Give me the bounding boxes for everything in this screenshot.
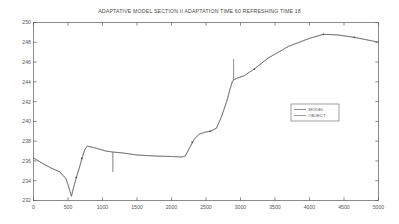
x-axis-tick-label: 4000 bbox=[304, 204, 316, 210]
x-axis-tick-label: 5000 bbox=[373, 204, 385, 210]
y-axis-tick-label: 248 bbox=[22, 39, 31, 45]
data-point-marker bbox=[75, 176, 77, 178]
y-axis-tick-label: 238 bbox=[22, 138, 31, 144]
chart-legend: MODELOBJECT bbox=[291, 104, 339, 121]
line-chart-plot: 0500100015002000250030003500400045005000… bbox=[0, 0, 399, 224]
chart-figure: ADAPTATIVE MODEL SECTION II ADAPTATION T… bbox=[0, 0, 399, 224]
y-axis-tick-label: 250 bbox=[22, 19, 31, 25]
y-axis-tick-label: 234 bbox=[22, 178, 31, 184]
data-point-marker bbox=[209, 130, 211, 132]
x-axis-tick-label: 2500 bbox=[200, 204, 212, 210]
x-axis-tick-label: 0 bbox=[32, 204, 35, 210]
x-axis-tick-label: 4500 bbox=[338, 204, 350, 210]
data-point-marker bbox=[81, 158, 83, 160]
y-axis-tick-label: 236 bbox=[22, 158, 31, 164]
x-axis-tick-label: 1500 bbox=[131, 204, 143, 210]
data-point-marker bbox=[322, 34, 324, 36]
y-axis-tick-label: 244 bbox=[22, 79, 31, 85]
x-axis-tick-label: 3000 bbox=[235, 204, 247, 210]
y-axis-tick-label: 242 bbox=[22, 99, 31, 105]
x-axis-tick-label: 500 bbox=[64, 204, 73, 210]
data-point-marker bbox=[191, 141, 193, 143]
legend-label-object: OBJECT bbox=[309, 113, 326, 118]
x-axis-tick-label: 1000 bbox=[97, 204, 109, 210]
data-point-marker bbox=[253, 68, 255, 70]
legend-label-model: MODEL bbox=[309, 107, 325, 112]
x-axis-tick-label: 3500 bbox=[269, 204, 281, 210]
data-point-marker bbox=[354, 36, 356, 38]
y-axis-tick-label: 246 bbox=[22, 59, 31, 65]
y-axis-tick-label: 240 bbox=[22, 118, 31, 124]
x-axis-tick-label: 2000 bbox=[166, 204, 178, 210]
y-axis-tick-label: 232 bbox=[22, 197, 31, 203]
